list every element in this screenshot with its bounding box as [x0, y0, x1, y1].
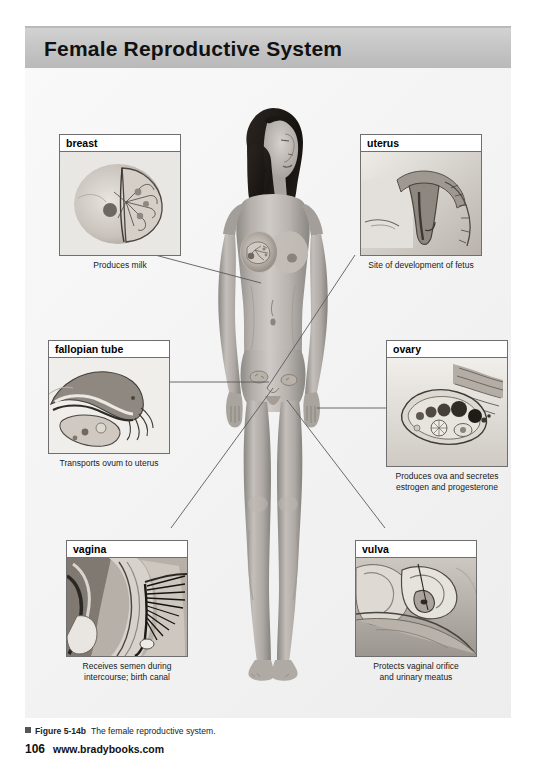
callout-uterus[interactable]: uterus Site of — [360, 134, 482, 271]
figure-number: Figure 5-14b — [35, 726, 86, 736]
callout-breast-caption: Produces milk — [59, 260, 181, 271]
callout-ovary-label: ovary — [387, 341, 507, 358]
callout-vulva-caption: Protects vaginal orifice and urinary mea… — [355, 661, 477, 682]
callout-vagina-label: vagina — [67, 541, 187, 558]
callout-breast-label: breast — [60, 135, 180, 152]
textbook-page: Female Reproductive System — [0, 0, 536, 779]
callout-vagina-box: vagina — [66, 540, 188, 657]
callout-breast-box: breast — [59, 134, 181, 256]
callout-uterus-label: uterus — [361, 135, 481, 152]
callout-ovary-caption-line-1: Produces ova and secretes — [386, 471, 508, 482]
breast-anatomy-image — [60, 152, 180, 255]
page-footer-line: 106www.bradybooks.com — [25, 739, 505, 757]
callout-ovary[interactable]: ovary — [386, 340, 508, 492]
callout-vulva-label: vulva — [356, 541, 476, 558]
callout-vulva-caption-line-2: and urinary meatus — [355, 672, 477, 683]
page-footer: Figure 5-14b The female reproductive sys… — [25, 726, 505, 757]
uterus-anatomy-image — [361, 152, 481, 255]
callout-ovary-caption-line-2: estrogen and progesterone — [386, 482, 508, 493]
callout-vagina-caption-line-1: Receives semen during — [66, 661, 188, 672]
callout-fallopian-label: fallopian tube — [49, 341, 169, 358]
vagina-anatomy-image — [67, 558, 187, 656]
leader-line-vulva — [287, 400, 385, 528]
vulva-anatomy-image — [356, 558, 476, 656]
callout-vulva-caption-line-1: Protects vaginal orifice — [355, 661, 477, 672]
publisher-website[interactable]: www.bradybooks.com — [53, 743, 164, 755]
figure-marker-icon — [25, 727, 31, 733]
callout-ovary-box: ovary — [386, 340, 508, 467]
callout-vagina[interactable]: vagina Receives semen du — [66, 540, 188, 682]
leader-line-uterus — [267, 255, 355, 388]
figure-caption-line: Figure 5-14b The female reproductive sys… — [25, 726, 505, 736]
callout-vagina-caption: Receives semen during intercourse; birth… — [66, 661, 188, 682]
callout-uterus-caption: Site of development of fetus — [360, 260, 482, 271]
callout-vulva[interactable]: vulva — [355, 540, 477, 682]
callout-vulva-box: vulva — [355, 540, 477, 657]
leader-line-vagina — [171, 388, 273, 528]
callout-fallopian-tube[interactable]: fallopian tube Transports ovum to uterus — [48, 340, 170, 469]
figure-caption-text: The female reproductive system. — [91, 726, 216, 736]
page-number: 106 — [25, 742, 45, 756]
callout-breast[interactable]: breast — [59, 134, 181, 271]
callout-vagina-caption-line-2: intercourse; birth canal — [66, 672, 188, 683]
callout-uterus-box: uterus — [360, 134, 482, 256]
ovary-anatomy-image — [387, 358, 507, 466]
callout-ovary-caption: Produces ova and secretes estrogen and p… — [386, 471, 508, 492]
fallopian-tube-anatomy-image — [49, 358, 169, 453]
callout-fallopian-caption: Transports ovum to uterus — [48, 458, 170, 469]
callout-fallopian-box: fallopian tube — [48, 340, 170, 454]
